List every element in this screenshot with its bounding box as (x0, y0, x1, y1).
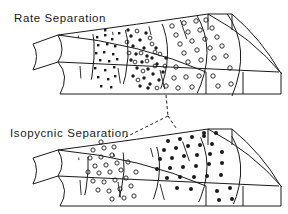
outer-roof-curve (208, 14, 282, 74)
left-cap-front-curve-2 (58, 150, 62, 176)
isopycnic-sector-dividers-front (80, 180, 166, 206)
outer-roof-curve-3 (208, 129, 282, 187)
mid-ledge (58, 62, 279, 72)
left-cap-front-curve (58, 35, 62, 62)
rotor-separation-figure: Rate Separation (0, 0, 288, 214)
rate-band-2-markers (125, 28, 168, 90)
left-cap-bottom-back-2 (33, 176, 58, 184)
left-cap-skirt (58, 62, 65, 94)
panel-rate-separation: Rate Separation (14, 12, 282, 96)
rate-separation-title: Rate Separation (14, 12, 106, 24)
isopycnic-band-2-markers (155, 131, 234, 202)
left-cap-top-back (33, 35, 58, 44)
panel-isopycnic-separation: Isopycnic Separation (10, 127, 282, 208)
left-cap-skirt-2 (58, 176, 65, 206)
left-cap-back-curve (33, 44, 37, 70)
figure-root: Rate Separation (0, 0, 288, 214)
rate-separation-wedge-outline (33, 14, 282, 94)
left-cap-bottom-back (33, 62, 58, 70)
dashed-connector (124, 95, 176, 138)
isopycnic-separation-title: Isopycnic Separation (10, 127, 129, 139)
left-cap-top-back-2 (33, 150, 58, 158)
isopycnic-band-1-markers (86, 140, 138, 201)
rate-band-1-markers (94, 29, 120, 88)
left-cap-back-curve-2 (33, 158, 37, 184)
rate-band-3-markers (164, 18, 233, 90)
